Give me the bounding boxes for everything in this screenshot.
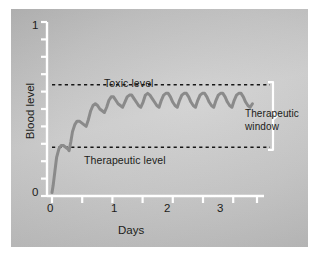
therapeutic-window-label-line1: Therapeutic: [245, 108, 299, 119]
toxic-level-label: Toxic level: [104, 78, 154, 90]
y-tick-label-0: 0: [32, 186, 38, 198]
x-axis-title: Days: [118, 224, 144, 236]
x-tick-label-2: 2: [164, 202, 170, 214]
therapeutic-level-label: Therapeutic level: [84, 155, 166, 167]
y-axis-title: Blood level: [24, 67, 36, 155]
figure-container: Blood level Days 1 0 0 1 2 3 Toxic level…: [0, 0, 319, 256]
y-tick-label-1: 1: [32, 19, 38, 31]
x-tick-label-0: 0: [47, 202, 53, 214]
therapeutic-window-label-line2: window: [245, 121, 279, 132]
blood-level-curve: [52, 93, 252, 192]
therapeutic-window-label: Therapeutic window: [245, 108, 299, 133]
x-tick-label-3: 3: [217, 202, 223, 214]
x-tick-label-1: 1: [111, 202, 117, 214]
